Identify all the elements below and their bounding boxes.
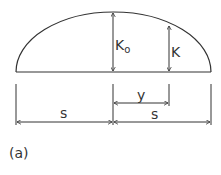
elliptical-arch-diagram: Ko K y s s xyxy=(0,0,221,175)
s-right-label: s xyxy=(151,106,158,122)
figure-caption: (a) xyxy=(9,145,29,161)
s-left-label: s xyxy=(60,105,67,121)
k0-label: Ko xyxy=(115,37,130,55)
k-label: K xyxy=(171,44,181,60)
y-label: y xyxy=(137,87,145,103)
